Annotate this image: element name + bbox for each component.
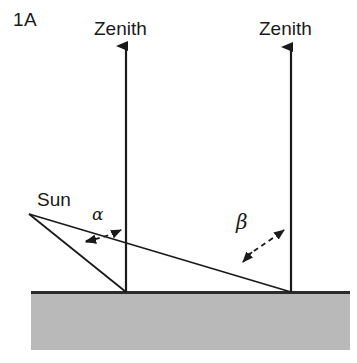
sun-ray-steep [29, 214, 126, 292]
alpha-angle-label: α [92, 206, 103, 223]
beta-angle-arc [243, 230, 284, 262]
ground-block [31, 292, 350, 350]
sun-label: Sun [37, 190, 71, 209]
zenith-label-left: Zenith [94, 19, 147, 38]
zenith-label-right: Zenith [259, 19, 312, 38]
zenith-angle-diagram [0, 0, 357, 363]
panel-label: 1A [13, 10, 37, 29]
figure-panel-1a: 1A Zenith Zenith Sun α β [0, 0, 357, 363]
beta-angle-label: β [236, 212, 248, 232]
